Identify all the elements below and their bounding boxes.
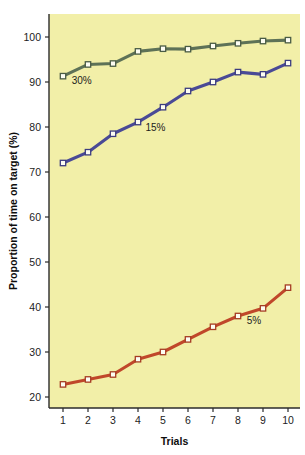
y-tick-label: 100 bbox=[23, 31, 41, 43]
data-point-marker bbox=[285, 285, 290, 290]
chart-container: 2030405060708090100 12345678910 30%15%5%… bbox=[0, 0, 305, 455]
data-point-marker bbox=[110, 61, 115, 66]
data-point-marker bbox=[260, 38, 265, 43]
y-axis-ticks: 2030405060708090100 bbox=[23, 31, 49, 403]
y-tick-label: 40 bbox=[29, 301, 41, 313]
data-point-marker bbox=[235, 69, 240, 74]
data-point-marker bbox=[110, 131, 115, 136]
data-point-marker bbox=[60, 160, 65, 165]
data-point-marker bbox=[235, 313, 240, 318]
y-tick-label: 60 bbox=[29, 211, 41, 223]
series-label-5pct: 5% bbox=[247, 315, 262, 326]
y-tick-label: 50 bbox=[29, 256, 41, 268]
line-chart: 2030405060708090100 12345678910 30%15%5%… bbox=[0, 0, 305, 455]
data-point-marker bbox=[85, 62, 90, 67]
data-point-marker bbox=[110, 372, 115, 377]
data-point-marker bbox=[160, 349, 165, 354]
data-point-marker bbox=[260, 306, 265, 311]
y-axis-title: Proportion of time on target (%) bbox=[7, 132, 19, 290]
data-point-marker bbox=[85, 150, 90, 155]
data-point-marker bbox=[60, 382, 65, 387]
data-point-marker bbox=[210, 43, 215, 48]
data-point-marker bbox=[135, 49, 140, 54]
x-tick-label: 5 bbox=[160, 414, 166, 426]
y-tick-label: 70 bbox=[29, 166, 41, 178]
x-tick-label: 4 bbox=[135, 414, 141, 426]
x-tick-label: 7 bbox=[210, 414, 216, 426]
series-label-30pct: 30% bbox=[72, 75, 92, 86]
x-tick-label: 9 bbox=[260, 414, 266, 426]
data-point-marker bbox=[60, 73, 65, 78]
y-tick-label: 30 bbox=[29, 346, 41, 358]
x-tick-label: 6 bbox=[185, 414, 191, 426]
x-tick-label: 8 bbox=[235, 414, 241, 426]
series-label-15pct: 15% bbox=[146, 122, 166, 133]
data-point-marker bbox=[160, 46, 165, 51]
data-point-marker bbox=[285, 60, 290, 65]
y-tick-label: 90 bbox=[29, 76, 41, 88]
x-axis-title: Trials bbox=[161, 435, 189, 447]
data-point-marker bbox=[235, 41, 240, 46]
y-tick-label: 20 bbox=[29, 391, 41, 403]
data-point-marker bbox=[135, 119, 140, 124]
data-point-marker bbox=[210, 324, 215, 329]
x-tick-label: 1 bbox=[60, 414, 66, 426]
data-point-marker bbox=[135, 357, 140, 362]
data-point-marker bbox=[160, 105, 165, 110]
data-point-marker bbox=[85, 377, 90, 382]
data-point-marker bbox=[285, 37, 290, 42]
x-tick-label: 10 bbox=[282, 414, 294, 426]
data-point-marker bbox=[185, 88, 190, 93]
data-point-marker bbox=[260, 72, 265, 77]
data-point-marker bbox=[185, 46, 190, 51]
data-point-marker bbox=[210, 79, 215, 84]
x-tick-label: 2 bbox=[85, 414, 91, 426]
x-axis-ticks: 12345678910 bbox=[60, 408, 294, 426]
x-tick-label: 3 bbox=[110, 414, 116, 426]
y-tick-label: 80 bbox=[29, 121, 41, 133]
data-point-marker bbox=[185, 337, 190, 342]
